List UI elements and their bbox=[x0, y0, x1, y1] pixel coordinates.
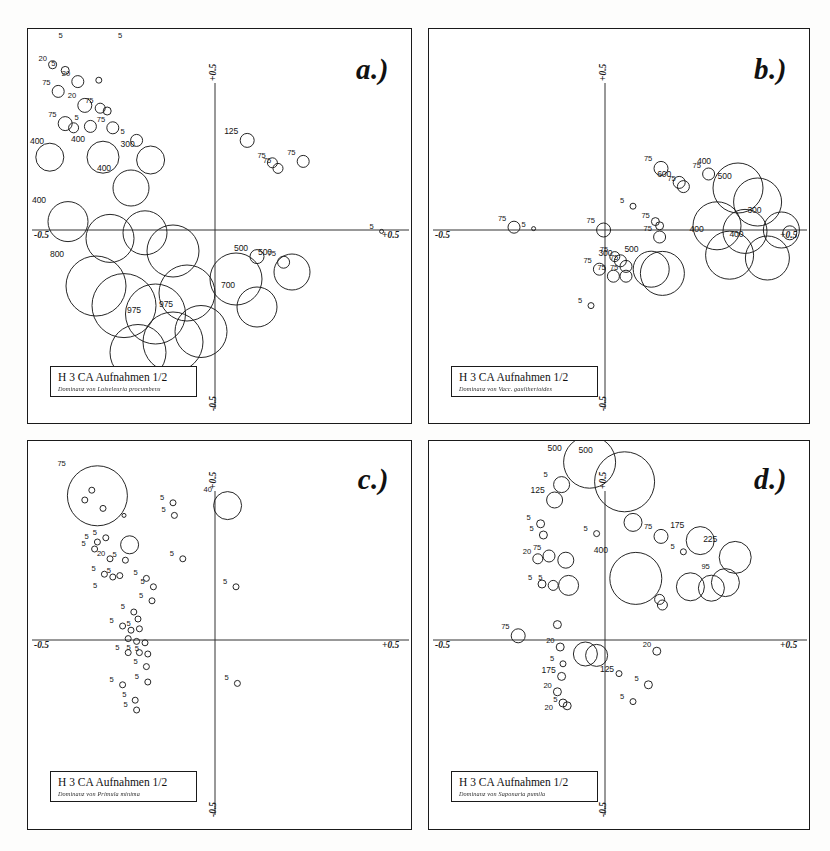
bubble-value-label: 5 bbox=[370, 222, 374, 231]
bubble-marker bbox=[594, 531, 600, 537]
bubble-marker bbox=[610, 552, 662, 604]
panel-a-legend-box: H 3 CA Aufnahmen 1/2 Dominanz von Loisel… bbox=[50, 366, 197, 397]
bubble-value-label: 75 bbox=[97, 115, 105, 124]
bubble-value-label: 5 bbox=[620, 196, 624, 205]
bubble-marker bbox=[654, 231, 666, 243]
figure-page: 5520520752075755755400400300125757575400… bbox=[0, 0, 830, 851]
bubble-marker bbox=[630, 699, 636, 705]
bubble-value-label: 5 bbox=[110, 616, 114, 625]
bubble-value-label: 300 bbox=[121, 139, 135, 149]
bubble-marker bbox=[533, 554, 543, 564]
bubble-marker bbox=[96, 77, 102, 83]
bubble-value-label: 975 bbox=[159, 299, 173, 309]
bubble-marker bbox=[616, 671, 622, 677]
bubble-marker bbox=[680, 549, 686, 555]
bubble-value-label: 5 bbox=[584, 524, 588, 533]
bubble-marker bbox=[624, 513, 642, 531]
bubble-value-label: 5 bbox=[140, 577, 144, 586]
bubble-value-label: 20 bbox=[545, 703, 553, 712]
panel-b-legend-subtitle: Dominanz von Vacc. gaultherioides bbox=[459, 386, 590, 393]
bubble-marker bbox=[560, 661, 566, 667]
bubble-marker bbox=[135, 616, 141, 622]
bubble-marker bbox=[120, 623, 126, 629]
bubble-value-label: 400 bbox=[697, 156, 711, 166]
bubble-marker bbox=[121, 536, 139, 554]
bubble-value-label: 5 bbox=[528, 573, 532, 582]
bubble-value-label: 75 bbox=[42, 78, 50, 87]
bubble-marker bbox=[132, 697, 138, 703]
bubble-marker bbox=[644, 681, 652, 689]
bubble-marker bbox=[297, 155, 309, 167]
bubble-value-label: 400 bbox=[729, 229, 743, 239]
bubble-value-label: 75 bbox=[610, 253, 618, 262]
bubble-value-label: 5 bbox=[224, 673, 228, 682]
bubble-marker bbox=[84, 120, 96, 132]
bubble-marker bbox=[117, 573, 123, 579]
panel-c-yaxis-min-label: -0.5 bbox=[208, 802, 218, 817]
panel-c-legend-subtitle: Dominanz von Primula minima bbox=[58, 791, 189, 798]
bubble-value-label: 20 bbox=[546, 636, 554, 645]
bubble-marker bbox=[655, 594, 665, 604]
bubble-marker bbox=[548, 580, 558, 590]
bubble-marker bbox=[103, 535, 109, 541]
bubble-marker bbox=[556, 643, 564, 651]
bubble-value-label: 5 bbox=[118, 31, 122, 40]
bubble-value-label: 5 bbox=[112, 550, 116, 559]
panel-c-letter: c.) bbox=[358, 463, 389, 496]
bubble-marker bbox=[703, 168, 715, 180]
bubble-value-label: 75 bbox=[533, 543, 541, 552]
bubble-value-label: 5 bbox=[634, 674, 638, 683]
bubble-value-label: 125 bbox=[531, 485, 545, 495]
bubble-value-label: 5 bbox=[161, 505, 165, 514]
panel-b-yaxis-max-label: +0.5 bbox=[598, 64, 608, 81]
panel-d-legend-title: H 3 CA Aufnahmen 1/2 bbox=[459, 776, 590, 789]
bubble-value-label: 5 bbox=[93, 581, 97, 590]
bubble-value-label: 75 bbox=[667, 174, 675, 183]
bubble-value-label: 5 bbox=[133, 568, 137, 577]
bubble-marker bbox=[170, 500, 176, 506]
bubble-marker bbox=[128, 627, 134, 633]
bubble-marker bbox=[640, 251, 684, 295]
bubble-value-label: 75 bbox=[287, 148, 295, 157]
bubble-marker bbox=[89, 487, 95, 493]
panel-d-xaxis-min-label: -0.5 bbox=[435, 640, 450, 650]
bubble-marker bbox=[94, 539, 100, 545]
bubble-marker bbox=[145, 679, 151, 685]
bubble-value-label: 175 bbox=[670, 520, 684, 530]
panel-a-yaxis-max-label: +0.5 bbox=[208, 64, 218, 81]
bubble-value-label: 500 bbox=[548, 443, 562, 453]
bubble-value-label: 75 bbox=[263, 156, 271, 165]
bubble-value-label: 5 bbox=[170, 549, 174, 558]
panel-d-letter: d.) bbox=[754, 463, 787, 496]
bubble-value-label: 5 bbox=[529, 524, 533, 533]
bubble-marker bbox=[67, 466, 127, 526]
bubble-value-label: 5 bbox=[110, 675, 114, 684]
panel-a-canvas bbox=[28, 29, 411, 423]
panel-a-legend-subtitle: Dominanz von Loiseleuria procumbens bbox=[58, 386, 189, 393]
bubble-value-label: 5 bbox=[553, 695, 557, 704]
bubble-value-label: 75 bbox=[644, 224, 652, 233]
bubble-value-label: 400 bbox=[97, 163, 111, 173]
bubble-marker bbox=[558, 552, 574, 568]
bubble-marker bbox=[125, 636, 131, 642]
bubble-value-label: 400 bbox=[690, 224, 704, 234]
bubble-marker bbox=[100, 505, 106, 511]
bubble-value-label: 5 bbox=[122, 690, 126, 699]
bubble-marker bbox=[142, 640, 148, 646]
bubble-value-label: 20 bbox=[39, 54, 47, 63]
bubble-value-label: 5 bbox=[126, 643, 130, 652]
panel-b-letter: b.) bbox=[754, 53, 787, 86]
bubble-value-label: 5 bbox=[51, 59, 55, 68]
bubble-value-label: 75 bbox=[48, 110, 56, 119]
bubble-marker bbox=[240, 133, 254, 147]
bubble-marker bbox=[539, 531, 547, 539]
bubble-marker bbox=[171, 512, 177, 518]
bubble-marker bbox=[86, 214, 134, 262]
bubble-value-label: 5 bbox=[538, 573, 542, 582]
bubble-marker bbox=[82, 497, 88, 503]
panel-c-legend-title: H 3 CA Aufnahmen 1/2 bbox=[58, 776, 189, 789]
panel-b-xaxis-max-label: +0.5 bbox=[780, 230, 797, 240]
bubble-marker bbox=[122, 513, 126, 517]
bubble-value-label: 75 bbox=[641, 211, 649, 220]
bubble-value-label: 20 bbox=[68, 91, 76, 100]
